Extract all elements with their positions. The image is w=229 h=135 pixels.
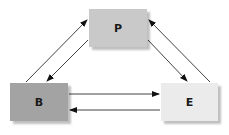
node-p: P bbox=[89, 9, 147, 47]
edge-p-to-b bbox=[47, 40, 88, 81]
node-e-label: E bbox=[186, 96, 194, 109]
edge-p-to-e bbox=[148, 40, 187, 81]
edge-b-to-p bbox=[26, 20, 87, 82]
node-b: B bbox=[10, 83, 68, 121]
node-b-label: B bbox=[35, 96, 43, 109]
node-e: E bbox=[161, 83, 218, 121]
triangle-flow-diagram: P B E bbox=[0, 0, 229, 135]
node-p-label: P bbox=[114, 22, 122, 35]
